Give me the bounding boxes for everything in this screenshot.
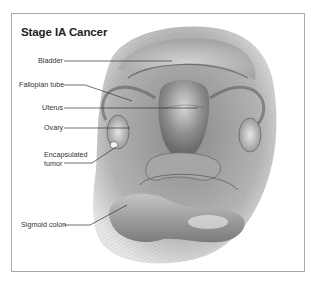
label-encapsulated-line2: tumor [44,160,88,169]
pelvic-anatomy-illustration [0,0,324,282]
encapsulated-tumor-mass [110,142,118,149]
label-ovary: Ovary [44,124,63,133]
label-sigmoid-colon: Sigmoid colon [21,221,66,230]
label-fallopian-tube: Fallopian tube [19,81,64,90]
label-bladder: Bladder [38,57,63,66]
figure-title: Stage IA Cancer [21,26,107,38]
label-encapsulated-tumor: Encapsulated tumor [44,151,88,168]
label-uterus: Uterus [42,104,63,113]
